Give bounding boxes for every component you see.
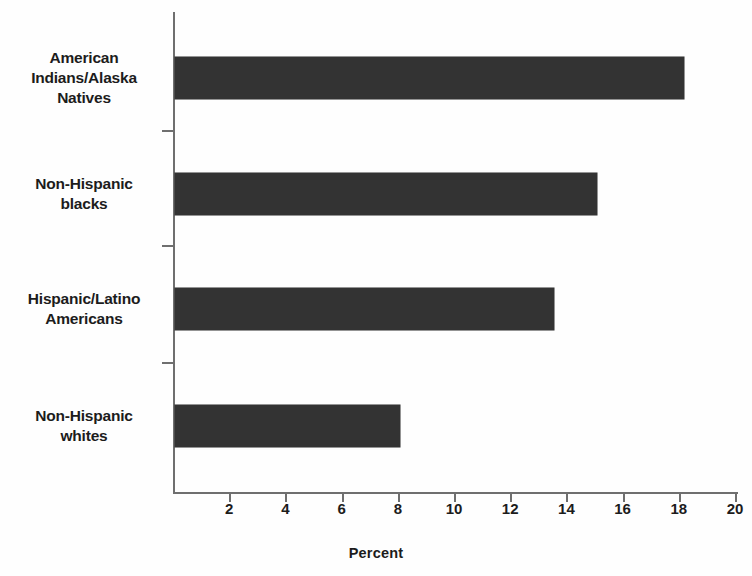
bar: [175, 173, 597, 215]
x-axis-tick-label: 16: [603, 500, 643, 517]
x-axis-tick-label: 8: [378, 500, 418, 517]
category-label-line: blacks: [0, 194, 168, 214]
category-label: Hispanic/LatinoAmericans: [0, 289, 168, 329]
y-axis-tick: [162, 362, 173, 364]
category-label-line: Natives: [0, 88, 168, 108]
x-axis-tick-label: 14: [546, 500, 586, 517]
category-label-line: Non-Hispanic: [0, 406, 168, 426]
x-axis-tick-label: 6: [322, 500, 362, 517]
y-axis-tick: [162, 130, 173, 132]
category-label-line: Americans: [0, 309, 168, 329]
y-axis-tick: [162, 245, 173, 247]
x-axis-tick-label: 18: [659, 500, 699, 517]
category-label-line: Hispanic/Latino: [0, 289, 168, 309]
plot-area: [173, 12, 743, 494]
category-label-line: Non-Hispanic: [0, 174, 168, 194]
category-label: AmericanIndians/AlaskaNatives: [0, 48, 168, 107]
category-label: Non-Hispanicwhites: [0, 406, 168, 446]
x-axis-tick-label: 4: [265, 500, 305, 517]
x-axis-tick-label: 12: [490, 500, 530, 517]
bar: [175, 288, 554, 330]
category-label-line: whites: [0, 426, 168, 446]
x-axis-title: Percent: [0, 545, 752, 561]
bar: [175, 57, 684, 99]
category-label: Non-Hispanicblacks: [0, 174, 168, 214]
x-axis-tick-label: 10: [434, 500, 474, 517]
x-axis-tick-label: 2: [209, 500, 249, 517]
bar: [175, 405, 400, 447]
x-axis-tick-label: 20: [715, 500, 752, 517]
bar-chart: AmericanIndians/AlaskaNativesNon-Hispani…: [0, 0, 752, 576]
category-label-line: American: [0, 48, 168, 68]
category-label-line: Indians/Alaska: [0, 68, 168, 88]
